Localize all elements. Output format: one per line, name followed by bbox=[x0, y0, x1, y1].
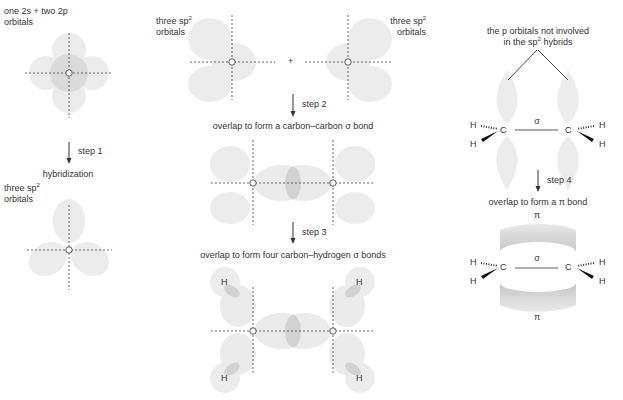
sigma-lower: σ bbox=[534, 253, 540, 264]
h-lower-left-2: H bbox=[470, 276, 477, 287]
sp2-carbon-a bbox=[188, 15, 275, 102]
c-lower-right: C bbox=[565, 262, 572, 273]
step2-label: step 2 bbox=[302, 99, 327, 110]
hydrogen-bottom-right: H bbox=[356, 373, 363, 384]
carbon-nucleus-icon bbox=[66, 70, 72, 76]
carbon-nucleus-icon bbox=[250, 180, 256, 186]
ethylene-sigma-framework bbox=[210, 267, 375, 393]
carbon-nucleus-icon bbox=[250, 328, 256, 334]
carbon-nucleus-icon bbox=[330, 180, 336, 186]
label-three-sp2-left: three sp2orbitals bbox=[4, 183, 40, 205]
step4-caption: overlap to form a π bond bbox=[489, 197, 588, 208]
h-upper-left-1: H bbox=[470, 120, 477, 131]
carbon-carbon-sigma bbox=[210, 140, 375, 225]
h-lower-left-1: H bbox=[470, 257, 477, 268]
pi-bond bbox=[481, 224, 594, 312]
c-upper-right: C bbox=[565, 125, 572, 136]
h-upper-right-2: H bbox=[599, 139, 606, 150]
hydrogen-top-left: H bbox=[221, 277, 228, 288]
sp2-orbitals-left bbox=[23, 199, 116, 290]
carbon-nucleus-icon bbox=[330, 328, 336, 334]
label-three-sp2-a: three sp2orbitals bbox=[156, 16, 192, 38]
step4-label: step 4 bbox=[547, 175, 572, 186]
label-three-sp2-b: three sp2orbitals bbox=[382, 16, 426, 38]
h-lower-right-2: H bbox=[599, 276, 606, 287]
c-upper-left: C bbox=[500, 125, 507, 136]
plus-sign: + bbox=[288, 56, 293, 67]
h-lower-right-1: H bbox=[599, 257, 606, 268]
c-lower-left: C bbox=[500, 262, 507, 273]
carbon-nucleus-icon bbox=[345, 59, 351, 65]
s-p-orbitals bbox=[25, 33, 112, 118]
label-one-2s-two-2p: one 2s + two 2porbitals bbox=[4, 6, 68, 28]
step1-label: step 1 bbox=[78, 146, 103, 157]
h-upper-left-2: H bbox=[470, 139, 477, 150]
carbon-nucleus-icon bbox=[66, 247, 72, 253]
sigma-upper: σ bbox=[534, 116, 540, 127]
hybridization-caption: hybridization bbox=[43, 169, 94, 180]
pi-label-top: π bbox=[534, 210, 540, 221]
sp2-carbon-b bbox=[305, 15, 392, 102]
step3-label: step 3 bbox=[302, 227, 327, 238]
h-upper-right-1: H bbox=[599, 120, 606, 131]
hydrogen-bottom-left: H bbox=[221, 373, 228, 384]
hydrogen-top-right: H bbox=[356, 277, 363, 288]
step3-caption: overlap to form four carbon–hydrogen σ b… bbox=[200, 250, 386, 261]
carbon-nucleus-icon bbox=[229, 59, 235, 65]
label-p-orbitals-not-involved: the p orbitals not involvedin the sp2 hy… bbox=[487, 26, 589, 48]
pi-label-bottom: π bbox=[534, 312, 540, 323]
step2-caption: overlap to form a carbon–carbon σ bond bbox=[213, 121, 374, 132]
